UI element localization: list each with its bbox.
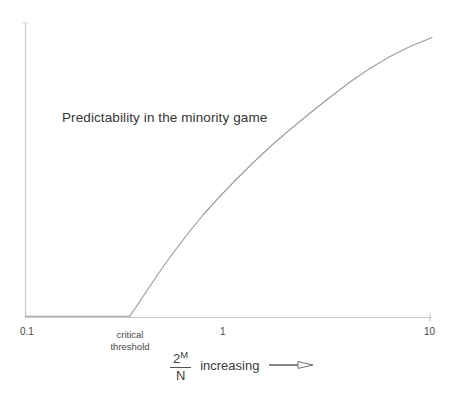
right-arrow-icon	[268, 359, 314, 371]
curve-rising-segment	[130, 38, 433, 317]
threshold-line-1: critical	[110, 329, 149, 341]
x-tick-label-max: 10	[424, 326, 435, 338]
numerator-exponent: M	[180, 349, 188, 360]
x-axis-caption: 2M N increasing	[170, 352, 314, 382]
chart-title: Predictability in the minority game	[62, 110, 267, 126]
plot-canvas	[0, 0, 454, 400]
fraction-numerator: 2M	[170, 352, 191, 367]
critical-threshold-annotation: critical threshold	[110, 329, 149, 353]
control-parameter-fraction: 2M N	[170, 352, 191, 382]
increasing-label: increasing	[200, 359, 259, 374]
fraction-denominator: N	[173, 368, 188, 383]
x-tick-label-min: 0.1	[20, 326, 34, 338]
x-tick-label-mid: 1	[220, 326, 226, 338]
threshold-line-2: threshold	[110, 341, 149, 353]
chart-figure: Predictability in the minority game 0.1 …	[0, 0, 454, 400]
